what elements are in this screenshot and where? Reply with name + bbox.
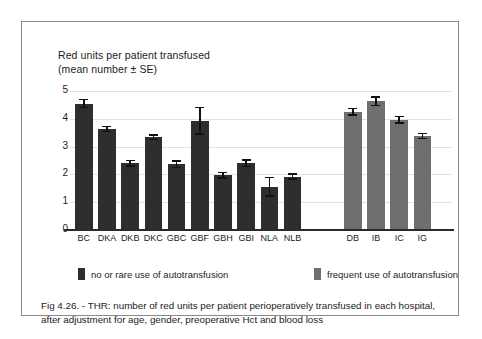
error-bar-db	[344, 108, 362, 116]
bar-dkb	[121, 163, 139, 230]
error-bar-dka	[98, 126, 116, 133]
legend-label: frequent use of autotransfusion	[327, 269, 458, 280]
bar-gbc	[168, 164, 186, 230]
error-bar-dkc	[145, 134, 163, 140]
x-axis-label-nlb: NLB	[273, 233, 313, 243]
chart-legend: no or rare use of autotransfusionfrequen…	[22, 268, 460, 288]
error-bar-gbi	[237, 159, 255, 167]
bar-gbh	[214, 175, 232, 230]
error-bar-ig	[414, 133, 432, 140]
error-bar-bc	[75, 99, 93, 108]
y-axis-tick-label: 4	[46, 112, 68, 123]
y-axis-tick-label: 1	[46, 195, 68, 206]
axis-title-line-2: (mean number ± SE)	[58, 63, 157, 75]
error-bar-nla	[261, 177, 279, 197]
legend-item-no-or-rare: no or rare use of autotransfusion	[78, 268, 228, 280]
axis-title-line-1: Red units per patient transfused	[58, 49, 210, 61]
bar-bc	[75, 104, 93, 230]
error-bar-ic	[390, 116, 408, 124]
legend-swatch-icon	[78, 268, 85, 280]
error-bar-gbh	[214, 172, 232, 179]
x-axis-label-ig: IG	[402, 233, 442, 243]
bar-nlb	[284, 177, 302, 230]
legend-label: no or rare use of autotransfusion	[91, 269, 228, 280]
bar-ib	[367, 101, 385, 230]
error-bar-dkb	[121, 160, 139, 167]
y-axis-tick-labels: 012345	[46, 91, 68, 230]
x-axis-line	[64, 229, 454, 231]
bar-dka	[98, 129, 116, 230]
bar-ic	[390, 120, 408, 230]
bar-gbi	[237, 163, 255, 230]
bar-dkc	[145, 137, 163, 230]
error-bar-ib	[367, 96, 385, 106]
gridline	[70, 91, 452, 92]
legend-item-frequent: frequent use of autotransfusion	[314, 268, 458, 280]
figure-frame: Red units per patient transfused(mean nu…	[21, 21, 459, 316]
bar-ig	[414, 136, 432, 230]
error-bar-gbc	[168, 160, 186, 168]
bar-db	[344, 112, 362, 230]
plot-area	[70, 91, 452, 230]
chart-axis-title: Red units per patient transfused(mean nu…	[58, 49, 210, 76]
figure-caption: Fig 4.26. - THR: number of red units per…	[41, 299, 445, 327]
y-axis-tick-label: 2	[46, 167, 68, 178]
bar-gbf	[191, 121, 209, 230]
error-bar-gbf	[191, 107, 209, 135]
error-bar-nlb	[284, 173, 302, 180]
y-axis-tick-label: 3	[46, 140, 68, 151]
legend-swatch-icon	[314, 268, 321, 280]
y-axis-tick-label: 5	[46, 84, 68, 95]
